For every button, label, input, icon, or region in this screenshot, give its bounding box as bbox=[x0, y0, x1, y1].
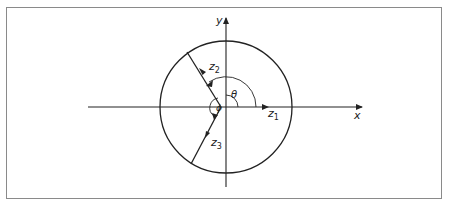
z1-label: z1 bbox=[267, 107, 279, 122]
z3-arrow-icon bbox=[205, 131, 210, 138]
phi-label: ϕ bbox=[216, 103, 222, 113]
diagram-canvas: y x z1 z2 z3 θ ϕ bbox=[0, 0, 449, 207]
x-axis-label: x bbox=[353, 109, 361, 122]
y-axis-label: y bbox=[215, 14, 223, 27]
z-line bbox=[187, 52, 191, 164]
theta-label: θ bbox=[231, 89, 237, 100]
z3-label: z3 bbox=[210, 136, 222, 151]
z2-label: z2 bbox=[208, 60, 220, 75]
